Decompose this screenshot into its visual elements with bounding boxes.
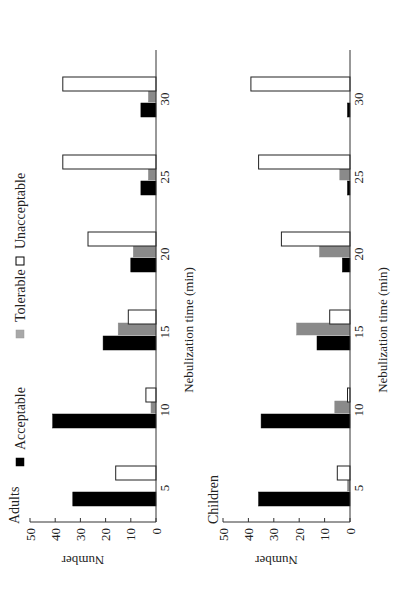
value-axis-tick-label: 40 [241, 528, 256, 541]
value-axis-tick-label: 30 [73, 528, 88, 541]
bar-unacceptable-5min: Unacceptable @ 5 min: 16 [116, 466, 156, 480]
bar-acceptable-30min: Acceptable @ 30 min: 6 [141, 103, 156, 117]
legend-label-unacceptable: Unacceptable [13, 173, 28, 249]
value-axis-tick-label: 10 [317, 528, 332, 541]
bar-unacceptable-30min: Unacceptable @ 30 min: 39 [251, 77, 350, 91]
category-tick-label: 30 [157, 93, 172, 106]
category-tick-label: 15 [157, 326, 172, 339]
panel-title: Adults [7, 487, 22, 524]
value-axis-tick-label: 20 [98, 528, 113, 541]
bar-acceptable-20min: Acceptable @ 20 min: 3 [342, 258, 350, 272]
value-axis-tick-label: 0 [343, 528, 358, 535]
category-tick-label: 30 [351, 93, 366, 106]
value-axis-tick-label: 50 [216, 528, 231, 541]
legend-label-tolerable: Tolerable [13, 269, 28, 322]
bar-unacceptable-10min: Unacceptable @ 10 min: 4 [146, 388, 156, 402]
bar-unacceptable-15min: Unacceptable @ 15 min: 11 [128, 310, 156, 324]
legend-swatch-tolerable [16, 330, 24, 338]
category-axis-label: Nebulization time (min) [181, 267, 196, 393]
adults-chart-panel: Acceptable @ 5 min: 33Unacceptable @ 5 m… [7, 50, 196, 568]
bar-tolerable-25min: Tolerable @ 25 min: 4 [340, 168, 350, 180]
value-axis-tick-label: 40 [48, 528, 63, 541]
category-tick-label: 10 [351, 404, 366, 417]
bar-tolerable-15min: Tolerable @ 15 min: 21 [297, 323, 350, 335]
category-tick-label: 20 [157, 248, 172, 261]
category-axis-label: Nebulization time (min) [375, 267, 390, 393]
legend-label-acceptable: Acceptable [13, 387, 28, 450]
rotated-bar-chart-figure: AcceptableTolerableUnacceptable Acceptab… [0, 0, 399, 599]
bar-acceptable-15min: Acceptable @ 15 min: 13 [317, 336, 350, 350]
legend: AcceptableTolerableUnacceptable [13, 173, 28, 466]
bar-tolerable-10min: Tolerable @ 10 min: 2 [151, 401, 156, 413]
bar-unacceptable-15min: Unacceptable @ 15 min: 8 [330, 310, 350, 324]
bar-tolerable-10min: Tolerable @ 10 min: 6 [335, 401, 350, 413]
bar-unacceptable-25min: Unacceptable @ 25 min: 37 [63, 155, 156, 169]
bar-tolerable-20min: Tolerable @ 20 min: 9 [133, 245, 156, 257]
bar-unacceptable-5min: Unacceptable @ 5 min: 5 [337, 466, 350, 480]
value-axis-tick-label: 20 [292, 528, 307, 541]
legend-swatch-unacceptable [16, 257, 24, 265]
bar-unacceptable-30min: Unacceptable @ 30 min: 37 [63, 77, 156, 91]
bar-acceptable-10min: Acceptable @ 10 min: 35 [261, 414, 350, 428]
bar-tolerable-15min: Tolerable @ 15 min: 15 [118, 323, 156, 335]
category-tick-label: 5 [351, 485, 366, 492]
bar-unacceptable-25min: Unacceptable @ 25 min: 36 [259, 155, 350, 169]
value-axis-label: Number [61, 553, 104, 568]
category-tick-label: 5 [157, 485, 172, 492]
value-axis-tick-label: 30 [266, 528, 281, 541]
category-tick-label: 10 [157, 404, 172, 417]
bar-acceptable-20min: Acceptable @ 20 min: 10 [131, 258, 156, 272]
category-tick-label: 25 [157, 171, 172, 184]
legend-swatch-acceptable [16, 458, 24, 466]
value-axis-tick-label: 10 [123, 528, 138, 541]
bar-acceptable-25min: Acceptable @ 25 min: 6 [141, 181, 156, 195]
bar-tolerable-30min: Tolerable @ 30 min: 3 [148, 90, 156, 102]
value-axis-tick-label: 50 [23, 528, 38, 541]
figure: AcceptableTolerableUnacceptable Acceptab… [0, 0, 399, 599]
bar-tolerable-25min: Tolerable @ 25 min: 3 [148, 168, 156, 180]
value-axis-tick-label: 0 [149, 528, 164, 535]
bar-acceptable-5min: Acceptable @ 5 min: 33 [73, 492, 156, 506]
panel-title: Children [206, 475, 221, 524]
children-chart-panel: Acceptable @ 5 min: 36Tolerable @ 5 min:… [206, 50, 390, 568]
bar-unacceptable-20min: Unacceptable @ 20 min: 27 [281, 232, 350, 246]
bar-tolerable-20min: Tolerable @ 20 min: 12 [320, 245, 351, 257]
category-tick-label: 15 [351, 326, 366, 339]
bar-acceptable-10min: Acceptable @ 10 min: 41 [53, 414, 156, 428]
category-tick-label: 25 [351, 171, 366, 184]
bar-acceptable-15min: Acceptable @ 15 min: 21 [103, 336, 156, 350]
category-tick-label: 20 [351, 248, 366, 261]
bar-acceptable-5min: Acceptable @ 5 min: 36 [259, 492, 350, 506]
bar-unacceptable-20min: Unacceptable @ 20 min: 27 [88, 232, 156, 246]
value-axis-label: Number [255, 553, 298, 568]
